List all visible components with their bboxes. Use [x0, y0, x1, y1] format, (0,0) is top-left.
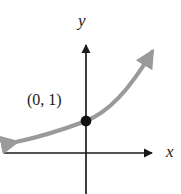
y-axis-label: y: [78, 12, 86, 29]
x-axis-label: x: [166, 143, 174, 160]
graph-figure: y x (0, 1): [0, 0, 181, 194]
y-intercept-point: [81, 116, 92, 127]
point-coordinate-label: (0, 1): [27, 92, 62, 108]
